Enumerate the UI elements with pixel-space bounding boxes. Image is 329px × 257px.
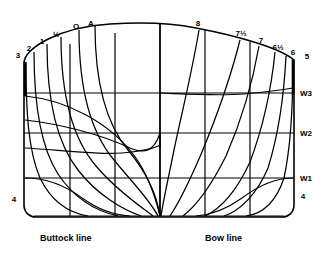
bilge-left	[25, 178, 130, 216]
corner-label-right: 4	[301, 192, 306, 201]
station-label-2: 2	[27, 44, 32, 53]
section-station-1	[47, 44, 141, 216]
after-body-diagonals	[25, 96, 160, 216]
station-label-3: 3	[16, 51, 21, 60]
figure-captions: Buttock line Bow line	[40, 233, 242, 243]
station-label-6: 6	[291, 48, 296, 57]
section-station-7	[183, 46, 259, 216]
diagonal-right-1	[160, 88, 293, 95]
waterline-grid	[24, 93, 294, 216]
after-body-sections	[26, 26, 160, 216]
caption-buttock-line: Buttock line	[40, 233, 92, 243]
section-station-6half	[205, 52, 275, 216]
station-label-a: A	[88, 19, 94, 28]
section-station-2	[34, 52, 118, 216]
station-labels-right: 8 7½ 7 6½ 6 5	[196, 19, 310, 61]
hull-outline	[24, 23, 294, 217]
chine-left	[25, 96, 160, 216]
station-label-half: ½	[53, 30, 60, 39]
corner-label-left: 4	[12, 195, 17, 204]
lines-plan-figure: 3 2 1 ½ O A 8 7½ 7 6½ 6 5 W3 W2 W1 4 4	[0, 0, 329, 257]
waterline-labels: W3 W2 W1	[300, 89, 313, 183]
station-label-8: 8	[196, 19, 201, 28]
section-station-8	[161, 30, 199, 216]
station-label-6half: 6½	[272, 43, 283, 52]
station-label-o: O	[73, 22, 79, 31]
section-station-a	[95, 26, 160, 216]
station-label-5: 5	[305, 52, 310, 61]
station-label-7half: 7½	[235, 29, 246, 38]
station-label-1: 1	[40, 37, 45, 46]
caption-bow-line: Bow line	[205, 233, 242, 243]
section-station-5	[246, 60, 293, 216]
body-plan-drawing: 3 2 1 ½ O A 8 7½ 7 6½ 6 5 W3 W2 W1 4 4	[0, 0, 329, 257]
waterline-label-w3: W3	[300, 89, 313, 98]
station-label-7: 7	[259, 36, 264, 45]
corner-labels: 4 4	[12, 192, 306, 204]
waterline-label-w1: W1	[300, 174, 313, 183]
waterline-label-w2: W2	[300, 129, 313, 138]
fore-body-sections	[161, 30, 293, 216]
